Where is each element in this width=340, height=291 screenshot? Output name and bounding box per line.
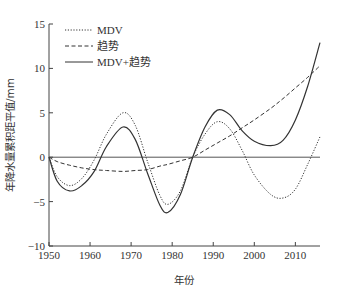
x-tick-label: 1960 bbox=[79, 249, 102, 261]
axes: −10−50510151950196019701980199020002010 bbox=[28, 18, 320, 261]
x-tick-label: 1990 bbox=[202, 249, 225, 261]
y-tick-label: 15 bbox=[34, 18, 46, 30]
line-chart: −10−50510151950196019701980199020002010 … bbox=[0, 0, 340, 291]
y-tick-label: 10 bbox=[34, 62, 46, 74]
x-tick-label: 1980 bbox=[161, 249, 184, 261]
series-line-dotted bbox=[49, 113, 320, 205]
legend: MDV趋势MDV+趋势 bbox=[65, 24, 151, 68]
x-tick-label: 1970 bbox=[120, 249, 143, 261]
y-tick-label: 0 bbox=[40, 151, 46, 163]
legend-label: MDV+趋势 bbox=[97, 56, 151, 68]
y-tick-label: −5 bbox=[33, 196, 45, 208]
x-tick-label: 1950 bbox=[38, 249, 61, 261]
x-axis-title: 年份 bbox=[174, 274, 195, 286]
x-tick-label: 2010 bbox=[284, 249, 307, 261]
y-tick-label: 5 bbox=[40, 107, 46, 119]
plot-lines bbox=[49, 43, 320, 213]
legend-label: 趋势 bbox=[97, 40, 119, 52]
x-tick-label: 2000 bbox=[243, 249, 266, 261]
y-axis-title: 年降水量累积距平值/mm bbox=[4, 78, 16, 192]
series-line-dashed bbox=[49, 66, 320, 172]
series-line-solid bbox=[49, 43, 320, 213]
legend-label: MDV bbox=[97, 24, 123, 36]
